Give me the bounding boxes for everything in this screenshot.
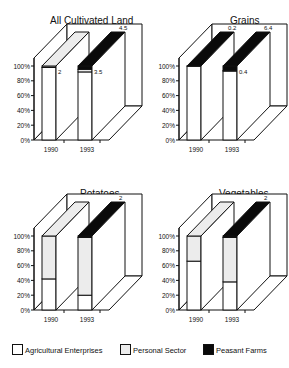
- data-annotation: 0.2: [228, 25, 237, 31]
- legend-item-agricultural-enterprises: Agricultural Enterprises: [12, 344, 103, 355]
- stacked-bar-plot: 0%20%40%60%80%100%199019930.20.46.4: [145, 0, 289, 165]
- data-annotation: 6.4: [264, 25, 273, 31]
- y-tick-label: 80%: [162, 247, 175, 254]
- legend-swatch-light-gray: [120, 344, 131, 355]
- bar-segment: [223, 282, 237, 310]
- x-tick-label: 1990: [44, 316, 59, 323]
- stacked-bar-plot: 0%20%40%60%80%100%199019932: [145, 178, 289, 343]
- y-tick-label: 100%: [158, 63, 175, 70]
- y-tick-label: 80%: [17, 77, 30, 84]
- legend-item-personal-sector: Personal Sector: [120, 344, 186, 355]
- x-tick-label: 1993: [80, 146, 95, 153]
- x-tick-label: 1990: [44, 146, 59, 153]
- y-tick-label: 40%: [17, 107, 30, 114]
- data-annotation: 0.4: [239, 69, 248, 75]
- bar-segment: [223, 71, 237, 140]
- y-tick-label: 60%: [162, 262, 175, 269]
- bar-segment: [78, 72, 92, 140]
- y-tick-label: 20%: [162, 292, 175, 299]
- y-tick-label: 20%: [162, 122, 175, 129]
- bar-segment: [187, 261, 201, 310]
- legend-label: Agricultural Enterprises: [25, 347, 103, 355]
- y-tick-label: 60%: [17, 92, 30, 99]
- y-tick-label: 40%: [17, 277, 30, 284]
- x-tick-label: 1990: [189, 316, 204, 323]
- legend-item-peasant-farms: Peasant Farms: [203, 344, 267, 355]
- bar-segment: [78, 295, 92, 310]
- data-annotation: 3.5: [94, 69, 103, 75]
- y-tick-label: 60%: [162, 92, 175, 99]
- y-tick-label: 0%: [21, 307, 31, 314]
- chart-panel-grains: Grains 0%20%40%60%80%100%199019930.20.46…: [145, 0, 289, 165]
- y-tick-label: 0%: [166, 307, 176, 314]
- chart-panel-potatoes: Potatoes 0%20%40%60%80%100%199019932: [0, 178, 144, 343]
- x-tick-label: 1993: [225, 316, 240, 323]
- y-tick-label: 20%: [17, 292, 30, 299]
- y-tick-label: 40%: [162, 107, 175, 114]
- chart-panel-vegetables: Vegetables 0%20%40%60%80%100%199019932: [145, 178, 289, 343]
- y-tick-label: 40%: [162, 277, 175, 284]
- bar-segment: [223, 237, 237, 281]
- legend-label: Personal Sector: [133, 347, 186, 355]
- data-annotation: 4.5: [119, 25, 128, 31]
- bar-segment: [187, 236, 201, 261]
- legend-swatch-black: [203, 344, 214, 355]
- chart-panel-all-cultivated-land: All Cultivated Land 0%20%40%60%80%100%19…: [0, 0, 144, 165]
- bar-segment: [42, 236, 56, 279]
- y-tick-label: 0%: [166, 137, 176, 144]
- legend-label: Peasant Farms: [216, 347, 267, 355]
- y-tick-label: 100%: [158, 233, 175, 240]
- bar-segment: [42, 67, 56, 140]
- bar-segment: [42, 279, 56, 310]
- legend-swatch-white: [12, 344, 23, 355]
- y-tick-label: 80%: [162, 77, 175, 84]
- stacked-bar-plot: 0%20%40%60%80%100%199019932: [0, 178, 144, 343]
- bar-segment: [223, 66, 237, 71]
- y-tick-label: 20%: [17, 122, 30, 129]
- x-tick-label: 1993: [80, 316, 95, 323]
- y-tick-label: 80%: [17, 247, 30, 254]
- stacked-bar-plot: 0%20%40%60%80%100%1990199323.54.5: [0, 0, 144, 165]
- x-tick-label: 1990: [189, 146, 204, 153]
- bar-segment: [187, 66, 201, 140]
- bar-segment: [78, 237, 92, 295]
- y-tick-label: 100%: [13, 233, 30, 240]
- x-tick-label: 1993: [225, 146, 240, 153]
- y-tick-label: 0%: [21, 137, 31, 144]
- y-tick-label: 60%: [17, 262, 30, 269]
- y-tick-label: 100%: [13, 63, 30, 70]
- chart-legend: Agricultural Enterprises Personal Sector…: [0, 336, 289, 366]
